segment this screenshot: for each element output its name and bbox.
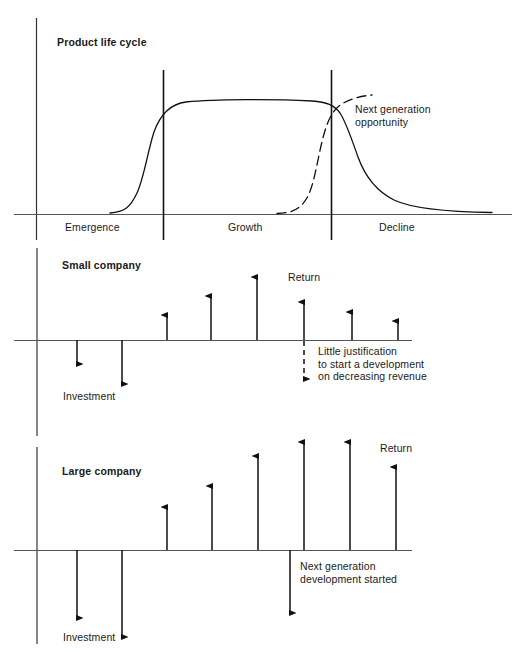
large-company-investment-label: Investment	[63, 631, 115, 644]
small-company-return-label: Return	[288, 271, 320, 284]
plc-current-generation-curve	[110, 100, 492, 213]
stage-label-emergence: Emergence	[65, 221, 120, 234]
stage-label-decline: Decline	[379, 221, 415, 234]
panel-small-company	[14, 248, 412, 436]
large-company-return-label: Return	[380, 442, 412, 455]
figure-canvas	[0, 0, 516, 652]
stage-label-growth: Growth	[228, 221, 262, 234]
small-company-investment-label: Investment	[63, 390, 115, 403]
panel-product-life-cycle	[14, 18, 512, 240]
annotation-little-justification: Little justification to start a developm…	[318, 345, 427, 383]
product-life-cycle-figure: Product life cycle Emergence Growth Decl…	[0, 0, 516, 652]
annotation-next-generation-development-started: Next generation development started	[300, 560, 397, 585]
panel-title-small-company: Small company	[62, 259, 141, 272]
panel-title-product-life-cycle: Product life cycle	[57, 36, 147, 49]
panel-title-large-company: Large company	[62, 465, 142, 478]
annotation-next-generation-opportunity: Next generation opportunity	[355, 103, 431, 128]
